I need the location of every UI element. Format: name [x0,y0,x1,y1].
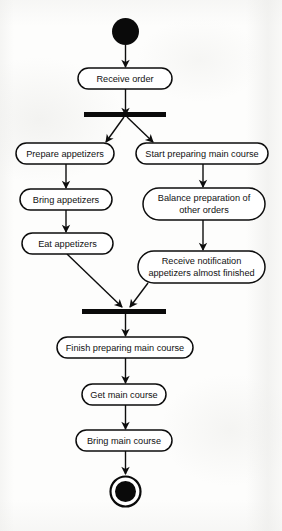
action-label-line-1: Balance preparation of [158,193,251,203]
fork-bar-shape [84,112,166,117]
action-label: Eat appetizers [38,239,97,249]
uml-activity-diagram-canvas: Receive order Prepare appetizers Start p… [0,0,282,531]
action-node-start-main-course[interactable]: Start preparing main course [136,143,268,164]
action-node-balance-preparation[interactable]: Balance preparation of other orders [143,188,265,220]
action-label: Receive order [96,74,153,84]
action-node-receive-order[interactable]: Receive order [78,68,172,89]
edge-eat-appetizers-to-join [67,254,122,307]
action-label: Bring appetizers [33,195,100,205]
join-bar-shape [82,309,166,314]
action-node-bring-main-course[interactable]: Bring main course [76,430,172,451]
action-label-line-1: Receive notification [162,256,242,266]
action-node-finish-main-course[interactable]: Finish preparing main course [57,337,193,358]
action-node-prepare-appetizers[interactable]: Prepare appetizers [16,143,114,164]
action-node-eat-appetizers[interactable]: Eat appetizers [22,233,113,254]
action-node-bring-appetizers[interactable]: Bring appetizers [20,189,112,210]
action-label: Finish preparing main course [66,343,184,353]
edge-fork-to-start-main-course [127,117,153,142]
final-node[interactable] [111,477,141,507]
fork-bar[interactable] [84,112,166,117]
action-label-line-2: appetizers almost finished [148,268,254,278]
join-bar[interactable] [82,309,166,314]
action-label: Start preparing main course [145,149,258,159]
initial-node[interactable] [112,18,139,45]
edge-fork-to-prepare-appetizers [106,117,124,142]
action-node-receive-notification[interactable]: Receive notification appetizers almost f… [138,251,265,283]
edge-receive-notification-to-join [130,283,148,307]
action-label: Prepare appetizers [26,149,104,159]
action-label: Get main course [90,390,157,400]
action-label: Bring main course [87,436,161,446]
final-node-inner-disc-icon [115,481,136,502]
activity-diagram-page: Receive order Prepare appetizers Start p… [0,0,282,531]
action-label-line-2: other orders [179,205,229,215]
initial-node-circle-icon [112,18,139,45]
action-node-get-main-course[interactable]: Get main course [82,384,166,405]
